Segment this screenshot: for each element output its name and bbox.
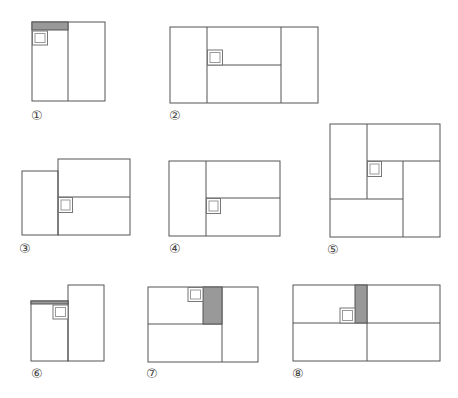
- shaded-strip: [203, 287, 222, 324]
- figure-label: ②: [169, 108, 181, 123]
- figure-4: ④: [169, 161, 280, 256]
- figure-label: ④: [169, 241, 181, 256]
- figure-6: ⑥: [31, 285, 104, 381]
- figure-label: ⑧: [292, 366, 304, 381]
- shaded-strip: [31, 301, 68, 304]
- figure-2: ②: [169, 27, 318, 123]
- figure-label: ⑤: [327, 242, 339, 257]
- shaded-strip: [32, 22, 68, 30]
- figure-5: ⑤: [327, 124, 440, 257]
- figure-7: ⑦: [146, 287, 258, 381]
- figure-3: ③: [19, 159, 130, 256]
- diagram-canvas: ① ② ③ ④ ⑤: [0, 0, 458, 398]
- figure-label: ①: [31, 108, 43, 123]
- shaded-strip: [355, 285, 367, 323]
- figure-8: ⑧: [292, 285, 440, 381]
- figure-1: ①: [31, 22, 105, 123]
- figure-label: ⑥: [31, 366, 43, 381]
- figure-label: ③: [19, 241, 31, 256]
- figure-label: ⑦: [146, 366, 158, 381]
